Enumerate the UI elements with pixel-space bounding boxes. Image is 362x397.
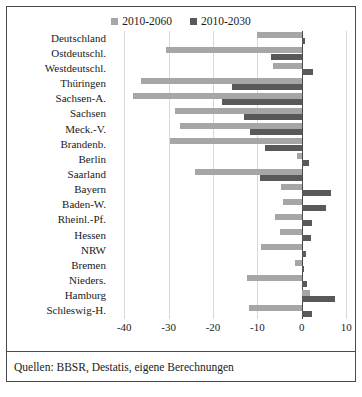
bar-2010-2030: [302, 296, 335, 302]
bar-2010-2060: [247, 275, 302, 281]
bars-panel: [111, 31, 355, 319]
category-label: Nieders.: [69, 275, 106, 286]
gridline: [213, 31, 214, 319]
gridline: [169, 31, 170, 319]
category-label: Rheinl.-Pf.: [58, 214, 106, 225]
bar-2010-2030: [302, 205, 326, 211]
source-caption: Quellen: BBSR, Destatis, eigene Berechnu…: [14, 361, 234, 373]
category-label: Bremen: [71, 260, 106, 271]
chart-figure: 2010-20602010-2030 DeutschlandOstdeutsch…: [0, 0, 362, 397]
legend-item: 2010-2030: [190, 15, 251, 27]
bar-2010-2060: [175, 108, 302, 114]
bar-2010-2060: [280, 229, 302, 235]
bar-2010-2030: [302, 251, 306, 257]
x-tick-label: -10: [250, 321, 265, 333]
bar-2010-2060: [261, 244, 302, 250]
category-axis: DeutschlandOstdeutschl.Westdeutschl.Thür…: [7, 31, 111, 319]
category-label: Schleswig-H.: [46, 305, 106, 316]
bar-2010-2030: [302, 266, 305, 272]
bar-2010-2030: [302, 311, 313, 317]
bar-2010-2030: [260, 175, 302, 181]
bar-2010-2030: [222, 99, 302, 105]
legend-label: 2010-2030: [201, 15, 251, 27]
x-tick-label: 10: [341, 321, 352, 333]
chart-frame: 2010-20602010-2030 DeutschlandOstdeutsch…: [6, 6, 356, 352]
bar-2010-2030: [302, 281, 307, 287]
bar-2010-2030: [250, 129, 301, 135]
bar-2010-2060: [257, 32, 302, 38]
bar-2010-2060: [273, 63, 301, 69]
bar-2010-2030: [302, 220, 313, 226]
x-tick-label: -20: [206, 321, 221, 333]
category-label: Meck.-V.: [65, 124, 106, 135]
x-tick-label: -40: [117, 321, 132, 333]
bar-2010-2030: [271, 54, 302, 60]
chart-legend: 2010-20602010-2030: [7, 11, 355, 31]
plot-area: DeutschlandOstdeutschl.Westdeutschl.Thür…: [7, 31, 357, 319]
category-label: Brandenb.: [60, 139, 106, 150]
bar-2010-2030: [302, 190, 331, 196]
legend-swatch-icon: [190, 18, 197, 25]
bar-2010-2060: [141, 78, 302, 84]
bar-2010-2060: [281, 184, 301, 190]
bar-2010-2030: [302, 38, 306, 44]
bar-2010-2060: [297, 153, 301, 159]
category-label: Hamburg: [65, 290, 106, 301]
bar-2010-2060: [249, 305, 302, 311]
x-tick-label: 0: [299, 321, 305, 333]
category-label: NRW: [81, 245, 106, 256]
bar-2010-2060: [295, 260, 302, 266]
bar-2010-2060: [133, 93, 302, 99]
caption-box: Quellen: BBSR, Destatis, eigene Berechnu…: [6, 352, 356, 382]
bar-2010-2030: [232, 84, 302, 90]
bar-2010-2030: [265, 145, 301, 151]
bar-2010-2060: [275, 214, 302, 220]
legend-swatch-icon: [111, 18, 118, 25]
category-label: Berlin: [79, 154, 107, 165]
category-label: Saarland: [68, 169, 106, 180]
gridline: [346, 31, 347, 319]
legend-label: 2010-2060: [122, 15, 172, 27]
category-label: Westdeutschl.: [45, 63, 106, 74]
bar-2010-2060: [180, 123, 302, 129]
category-label: Baden-W.: [62, 199, 106, 210]
bar-2010-2060: [170, 138, 302, 144]
bar-2010-2060: [166, 47, 302, 53]
bar-2010-2030: [302, 69, 314, 75]
category-label: Deutschland: [51, 33, 106, 44]
category-label: Ostdeutschl.: [51, 48, 106, 59]
bar-2010-2060: [302, 290, 310, 296]
category-label: Bayern: [74, 184, 106, 195]
legend-item: 2010-2060: [111, 15, 172, 27]
x-tick-label: -30: [161, 321, 176, 333]
x-axis: -40-30-20-10010: [111, 321, 355, 337]
bar-2010-2030: [302, 235, 311, 241]
bar-2010-2060: [283, 199, 302, 205]
bar-2010-2030: [244, 114, 302, 120]
gridline: [124, 31, 125, 319]
category-label: Sachsen-A.: [56, 93, 106, 104]
category-label: Hessen: [74, 230, 106, 241]
category-label: Sachsen: [70, 108, 106, 119]
bar-2010-2060: [195, 169, 301, 175]
category-label: Thüringen: [60, 78, 106, 89]
bar-2010-2030: [302, 160, 309, 166]
